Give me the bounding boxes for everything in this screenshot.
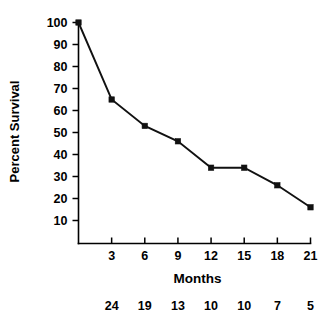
survival-curve-markers [76, 20, 313, 210]
x-axis-tick-label: 6 [141, 249, 148, 263]
at-risk-count: 13 [171, 299, 185, 313]
x-axis: 36912151821 [79, 238, 318, 263]
survival-curve-line [79, 23, 311, 208]
at-risk-count: 10 [204, 299, 218, 313]
y-axis-label: Percent Survival [7, 81, 22, 183]
x-axis-ticks [112, 238, 311, 244]
y-axis-tick-label: 50 [54, 126, 68, 140]
at-risk-row: 241913101075 [105, 299, 314, 313]
survival-chart-figure: 102030405060708090100 36912151821 Percen… [0, 0, 333, 328]
x-axis-tick-label: 3 [108, 249, 115, 263]
at-risk-count: 24 [105, 299, 119, 313]
data-point-marker [175, 139, 180, 144]
at-risk-count: 5 [307, 299, 314, 313]
y-axis-tick-label: 30 [54, 170, 68, 184]
data-point-marker [242, 165, 247, 170]
y-axis-ticks [73, 23, 79, 221]
data-point-marker [142, 123, 147, 128]
x-axis-tick-label: 9 [174, 249, 181, 263]
y-axis-tick-label: 10 [54, 214, 68, 228]
data-point-marker [208, 165, 213, 170]
x-axis-tick-labels: 36912151821 [108, 249, 317, 263]
x-axis-tick-label: 18 [270, 249, 284, 263]
y-axis: 102030405060708090100 [47, 16, 79, 244]
data-point-marker [308, 205, 313, 210]
y-axis-tick-label: 20 [54, 192, 68, 206]
x-axis-tick-label: 12 [204, 249, 218, 263]
survival-curve [76, 20, 313, 210]
at-risk-count: 19 [138, 299, 152, 313]
data-point-marker [275, 183, 280, 188]
x-axis-label: Months [174, 271, 222, 286]
y-axis-tick-label: 40 [54, 148, 68, 162]
y-axis-tick-labels: 102030405060708090100 [47, 16, 68, 228]
y-axis-tick-label: 90 [54, 38, 68, 52]
x-axis-tick-label: 15 [237, 249, 251, 263]
y-axis-tick-label: 70 [54, 82, 68, 96]
y-axis-tick-label: 60 [54, 104, 68, 118]
data-point-marker [109, 97, 114, 102]
data-point-marker [76, 20, 81, 25]
y-axis-tick-label: 80 [54, 60, 68, 74]
x-axis-tick-label: 21 [304, 249, 318, 263]
chart-canvas: 102030405060708090100 36912151821 Percen… [0, 0, 333, 328]
at-risk-count: 7 [274, 299, 281, 313]
y-axis-tick-label: 100 [47, 16, 68, 30]
at-risk-count: 10 [237, 299, 251, 313]
